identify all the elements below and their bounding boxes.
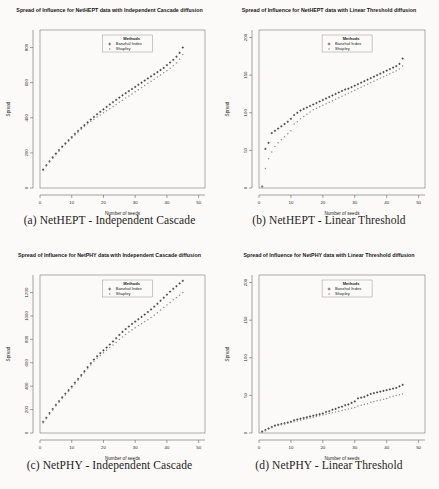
y-tick-label: 0 (243, 186, 248, 189)
data-point (338, 410, 340, 412)
y-axis-label: Spread (225, 101, 230, 116)
data-point (402, 57, 404, 59)
y-tick-label: 50 (243, 147, 248, 152)
data-point (350, 402, 352, 404)
data-point (296, 112, 298, 114)
data-point (83, 370, 85, 372)
y-tick-label: 0 (243, 431, 248, 434)
data-point (182, 46, 184, 48)
data-point (112, 106, 114, 108)
data-point (134, 91, 136, 93)
data-point (100, 355, 102, 357)
data-point (103, 112, 105, 114)
data-point (367, 403, 369, 405)
data-point (166, 304, 168, 306)
data-point (102, 108, 104, 110)
data-point (81, 129, 83, 131)
y-tick-label: 1000 (24, 311, 29, 321)
data-point (86, 366, 88, 368)
x-tick-label: 50 (416, 200, 421, 205)
data-point (106, 346, 108, 348)
data-point (140, 316, 142, 318)
data-point (87, 368, 89, 370)
data-point (150, 81, 152, 83)
data-point (306, 106, 308, 108)
data-point (147, 77, 149, 79)
data-point (118, 96, 120, 98)
data-point (65, 144, 67, 146)
data-point (341, 406, 343, 408)
data-point (360, 397, 362, 399)
data-point (52, 409, 54, 411)
data-point (335, 93, 337, 95)
data-point (366, 79, 368, 81)
data-point (131, 329, 133, 331)
y-tick-label: 600 (24, 359, 29, 367)
data-point (128, 95, 130, 97)
data-point (84, 126, 86, 128)
data-point (128, 331, 130, 333)
data-point (315, 102, 317, 104)
data-point (341, 90, 343, 92)
x-tick-label: 30 (352, 200, 357, 205)
caption-c: (c) NetPHY - Independent Cascade (0, 459, 219, 471)
data-point (309, 417, 311, 419)
plot-frame (40, 30, 205, 188)
data-point (125, 334, 127, 336)
data-point (303, 419, 305, 421)
data-point (100, 114, 102, 116)
data-point (115, 104, 117, 106)
x-tick-label: 0 (258, 200, 261, 205)
y-tick-label: 0 (24, 431, 29, 434)
data-point (370, 77, 372, 79)
data-point (309, 111, 311, 113)
x-tick-label: 40 (164, 445, 169, 450)
data-point (141, 87, 143, 89)
data-point (175, 56, 177, 58)
data-point (166, 70, 168, 72)
chart-title: Spread of Influence for NetPHY data with… (18, 252, 201, 258)
legend-item-label: Shapley (116, 291, 132, 296)
x-tick-label: 30 (133, 445, 138, 450)
legend-marker-banzhaf (328, 288, 331, 291)
plot-frame (40, 275, 205, 433)
legend-marker-banzhaf (328, 43, 331, 46)
data-point (290, 118, 292, 120)
data-point (166, 294, 168, 296)
y-axis-label: Spread (225, 346, 230, 361)
data-point (90, 121, 92, 123)
data-point (179, 52, 181, 54)
plot-frame (259, 30, 425, 188)
data-point (319, 100, 321, 102)
data-point (55, 405, 57, 407)
data-point (373, 392, 375, 394)
data-point (74, 134, 76, 136)
legend-item-label: Shapley (116, 46, 132, 51)
x-tick-label: 0 (258, 445, 261, 450)
legend-marker-shapley (328, 293, 330, 295)
y-tick-label: 600 (24, 78, 29, 86)
data-point (383, 398, 385, 400)
data-point (287, 133, 289, 135)
y-tick-label: 200 (24, 405, 29, 413)
data-point (261, 431, 263, 433)
data-point (290, 422, 292, 424)
data-point (173, 299, 175, 301)
x-tick-label: 50 (196, 445, 201, 450)
figure-grid: Spread of Influence for NetHEPT data wit… (0, 0, 439, 489)
data-point (297, 121, 299, 123)
data-point (382, 71, 384, 73)
data-point (144, 321, 146, 323)
caption-d: (d) NetPHY - Linear Threshold (219, 459, 439, 471)
data-point (169, 61, 171, 63)
chart-title: Spread of Influence for NetHEPT data wit… (242, 7, 417, 13)
data-point (376, 400, 378, 402)
data-point (49, 414, 51, 416)
chart-title: Spread of Influence for NetHEPT data wit… (16, 7, 202, 13)
data-point (141, 323, 143, 325)
data-point (125, 97, 127, 99)
data-point (373, 80, 375, 82)
data-point (347, 403, 349, 405)
data-point (46, 165, 48, 167)
data-point (122, 336, 124, 338)
